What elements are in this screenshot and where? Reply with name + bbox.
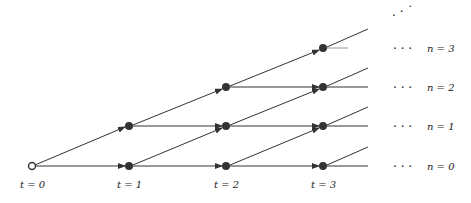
state-label: n = 1 (427, 121, 455, 132)
time-labels: t = 0 t = 1 t = 2 t = 3 (20, 179, 336, 190)
time-label: t = 2 (214, 179, 239, 190)
lattice-diagram: t = 0 t = 1 t = 2 t = 3 . · ˙ · · · · · … (0, 0, 471, 203)
continuation-dots: . · ˙ · · · · · · · · · · · · (392, 5, 413, 174)
time-label: t = 3 (311, 179, 336, 190)
node (125, 122, 133, 130)
edges (35, 29, 368, 166)
dots: · · · (393, 42, 412, 56)
dots: · · · (393, 81, 412, 95)
time-label: t = 1 (117, 179, 142, 190)
start-node (29, 163, 36, 170)
node (222, 162, 230, 170)
dots: · · · (393, 160, 412, 174)
time-label: t = 0 (20, 179, 46, 190)
node (222, 122, 230, 130)
node (125, 162, 133, 170)
state-label: n = 2 (427, 82, 455, 93)
node (319, 44, 327, 52)
state-label: n = 0 (427, 161, 455, 172)
node (319, 83, 327, 91)
node (319, 162, 327, 170)
node (319, 122, 327, 130)
state-label: n = 3 (427, 43, 455, 54)
diagonal-dots: . · ˙ (392, 5, 413, 19)
dots: · · · (393, 120, 412, 134)
state-labels: n = 3 n = 2 n = 1 n = 0 (427, 43, 455, 172)
node (222, 83, 230, 91)
